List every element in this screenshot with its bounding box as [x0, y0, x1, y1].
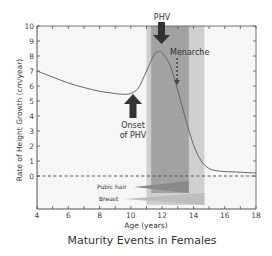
- y-tick-label: 10: [24, 22, 34, 31]
- x-tick-label: 8: [97, 211, 102, 220]
- pubic-hair-label: Pubic hair: [97, 183, 127, 190]
- breast-label: Breast: [99, 195, 119, 202]
- y-tick-label: 3: [29, 127, 34, 136]
- maturity-chart: 4681012141618012345678910 Pubic hair Bre…: [0, 0, 272, 256]
- y-tick-label: 0: [29, 172, 34, 181]
- onset-label-line1: Onset: [121, 121, 145, 130]
- y-tick-label: 4: [29, 112, 34, 121]
- y-axis-label: Rate of Height Growth (cm/year): [15, 59, 24, 182]
- chart-title: Maturity Events in Females: [67, 234, 216, 247]
- y-tick-label: 2: [29, 142, 34, 151]
- x-tick-label: 4: [35, 211, 40, 220]
- x-axis-label: Age (years): [124, 221, 167, 230]
- x-tick-label: 18: [251, 211, 261, 220]
- x-tick-label: 12: [157, 211, 167, 220]
- onset-arrow-shaft: [130, 104, 137, 118]
- x-tick-label: 16: [220, 211, 230, 220]
- y-tick-label: 9: [29, 37, 34, 46]
- y-tick-label: 6: [29, 82, 34, 91]
- y-tick-label: 1: [29, 157, 34, 166]
- x-tick-label: 6: [66, 211, 71, 220]
- phv-label: PHV: [154, 13, 171, 22]
- y-tick-label: 5: [29, 97, 34, 106]
- onset-label-line2: of PHV: [120, 131, 147, 140]
- y-tick-label: 7: [29, 67, 34, 76]
- menarche-label: Menarche: [170, 48, 209, 57]
- y-tick-label: 8: [29, 52, 34, 61]
- x-tick-label: 10: [126, 211, 136, 220]
- phv-arrow-shaft: [158, 22, 165, 36]
- x-tick-label: 14: [189, 211, 199, 220]
